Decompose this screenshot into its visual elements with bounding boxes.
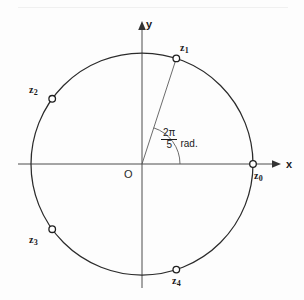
root-label-z1-sub: 1 — [185, 46, 189, 55]
x-axis-arrowhead — [272, 160, 281, 168]
angle-annotation: 2π 5 rad. — [161, 128, 198, 150]
roots-of-unity-figure: y x O z0 z1 z2 z3 z4 2π 5 rad. — [0, 0, 304, 300]
root-marker-z2[interactable] — [49, 96, 56, 103]
angle-fraction: 2π 5 — [161, 128, 177, 150]
root-marker-z0[interactable] — [250, 161, 257, 168]
root-label-z3-sub: 3 — [34, 238, 38, 247]
diagram-canvas — [0, 0, 304, 300]
angle-unit: rad. — [180, 138, 197, 150]
root-label-z0-sub: 0 — [259, 174, 263, 183]
origin-label: O — [124, 168, 133, 180]
root-label-z2-sub: 2 — [34, 88, 38, 97]
y-axis-label: y — [146, 18, 152, 30]
root-label-z4: z4 — [172, 275, 181, 288]
x-axis-label: x — [286, 158, 292, 170]
root-marker-z3[interactable] — [49, 226, 56, 233]
root-label-z1: z1 — [180, 42, 189, 55]
root-label-z3: z3 — [29, 234, 38, 247]
y-axis-arrowhead — [138, 21, 146, 30]
angle-denominator: 5 — [164, 140, 174, 151]
angle-numerator: 2π — [161, 128, 177, 139]
root-marker-z1[interactable] — [173, 55, 180, 62]
root-label-z4-sub: 4 — [177, 279, 181, 288]
root-label-z2: z2 — [29, 84, 38, 97]
root-label-z0: z0 — [254, 170, 263, 183]
root-marker-z4[interactable] — [173, 266, 180, 273]
